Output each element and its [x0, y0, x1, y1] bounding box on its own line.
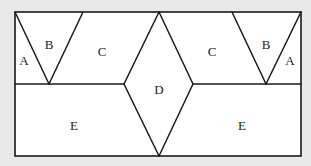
- region-label-e-right: E: [238, 118, 246, 133]
- region-label-e-left: E: [70, 118, 78, 133]
- region-label-a-right: A: [285, 53, 295, 68]
- region-label-a-left: A: [19, 53, 29, 68]
- region-label-c-left: C: [98, 44, 107, 59]
- region-label-d: D: [154, 82, 163, 97]
- diagram-canvas: ABCDCBAEE: [0, 0, 311, 166]
- rectangle-dissection-diagram: ABCDCBAEE: [0, 0, 311, 166]
- region-label-b-right: B: [262, 37, 271, 52]
- region-label-c-right: C: [208, 44, 217, 59]
- region-label-b-left: B: [45, 37, 54, 52]
